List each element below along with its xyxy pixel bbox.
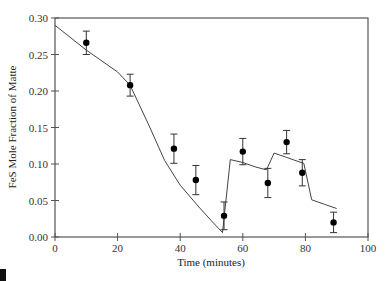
y-tick-label: 0.15 (29, 122, 49, 134)
scan-artifact (0, 269, 6, 281)
marker (265, 180, 271, 186)
marker (221, 213, 227, 219)
chart: 0.000.050.100.150.200.250.30 02040608010… (0, 0, 388, 281)
marker (171, 145, 177, 151)
x-tick-label: 100 (360, 242, 377, 254)
marker (283, 139, 289, 145)
x-tick-label: 20 (112, 242, 124, 254)
x-tick-label: 40 (175, 242, 187, 254)
data-point (264, 168, 271, 197)
y-tick-label: 0.20 (29, 85, 49, 97)
data-point (170, 134, 177, 163)
data-point (283, 130, 290, 153)
marker (330, 219, 336, 225)
y-tick-label: 0.10 (29, 158, 49, 170)
model-curve (55, 25, 337, 232)
data-point (239, 138, 246, 164)
x-tick-label: 0 (52, 242, 58, 254)
y-axis-title: FeS Mole Fraction of Matte (6, 65, 18, 188)
data-point (83, 31, 90, 54)
x-axis-title: Time (minutes) (177, 256, 245, 269)
marker (193, 177, 199, 183)
data-point (221, 202, 228, 230)
data-point (192, 165, 199, 194)
x-tick-label: 80 (300, 242, 312, 254)
data-point (299, 160, 306, 186)
marker (127, 82, 133, 88)
marker (83, 40, 89, 46)
y-tick-label: 0.30 (29, 12, 49, 24)
data-point (330, 212, 337, 232)
plot-frame (55, 18, 368, 237)
data-point (127, 74, 134, 96)
data-points (83, 31, 337, 232)
model-line (55, 25, 337, 232)
y-tick-label: 0.25 (29, 49, 49, 61)
y-tick-label: 0.05 (29, 195, 49, 207)
plot-border (55, 18, 368, 237)
x-axis: 020406080100 (52, 233, 377, 254)
x-tick-label: 60 (237, 242, 249, 254)
marker (240, 148, 246, 154)
marker (299, 170, 305, 176)
y-tick-label: 0.00 (29, 231, 49, 243)
